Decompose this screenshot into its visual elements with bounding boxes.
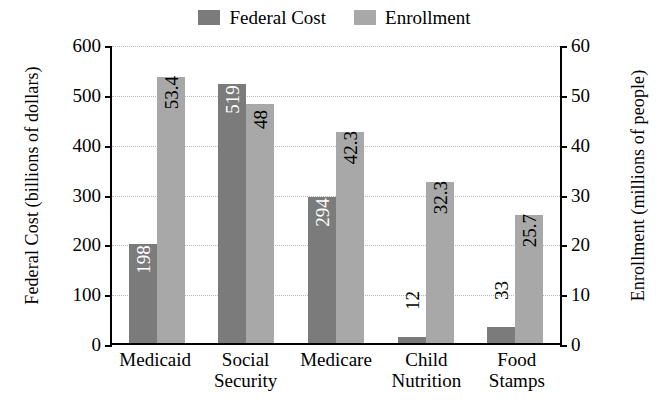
y-axis-right-tick-label: 60 [571, 36, 631, 55]
x-axis-category-label: FoodStamps [472, 349, 562, 407]
y-axis-left-tick-label: 500 [41, 86, 101, 105]
chart-legend: Federal Cost Enrollment [0, 2, 669, 32]
bar-value-label: 519 [223, 86, 242, 115]
y-axis-right-tick [560, 345, 567, 347]
y-axis-right-tick-label: 30 [571, 186, 631, 205]
legend-item-federal-cost: Federal Cost [198, 8, 326, 27]
bar-value-label: 294 [312, 198, 331, 227]
bar-enrollment[interactable]: 48 [246, 104, 274, 343]
y-axis-right-tick-label: 0 [571, 335, 631, 354]
y-axis-left-tick-label: 0 [41, 335, 101, 354]
y-axis-left-tick-label: 200 [41, 235, 101, 254]
y-axis-left-tick [105, 146, 112, 148]
y-axis-right-tick [560, 245, 567, 247]
bar-value-label: 53.4 [161, 76, 180, 109]
y-axis-left-tick [105, 345, 112, 347]
y-axis-right-tick-label: 10 [571, 285, 631, 304]
bar-value-label: 33 [492, 281, 511, 300]
y-axis-right-tick-label: 50 [571, 86, 631, 105]
x-axis-category-line: Medicaid [110, 349, 200, 370]
legend-item-enrollment: Enrollment [354, 8, 470, 27]
y-axis-left-tick-label: 100 [41, 285, 101, 304]
legend-label-federal-cost: Federal Cost [229, 8, 326, 27]
x-axis-category-line: Social [200, 349, 290, 370]
y-axis-right-tick [560, 295, 567, 297]
bar-federal-cost[interactable]: 519 [218, 84, 246, 343]
y-axis-left-title: Federal Cost (billions of dollars) [22, 36, 43, 336]
y-axis-right-tick-label: 40 [571, 136, 631, 155]
bar-federal-cost[interactable]: 198 [129, 244, 157, 343]
bar-value-label: 48 [251, 110, 270, 129]
bar-value-label: 198 [133, 246, 152, 275]
bar-enrollment[interactable]: 42.3 [336, 132, 364, 343]
bar-federal-cost[interactable]: 294 [308, 197, 336, 344]
x-axis-category-line: Medicare [291, 349, 381, 370]
x-axis-category-label: ChildNutrition [381, 349, 471, 407]
x-axis-category-line: Nutrition [381, 370, 471, 391]
bar-enrollment[interactable]: 53.4 [157, 77, 185, 343]
y-axis-left-tick-label: 600 [41, 36, 101, 55]
bar-value-label: 12 [402, 291, 421, 310]
legend-label-enrollment: Enrollment [385, 8, 470, 27]
y-axis-left-tick-label: 400 [41, 136, 101, 155]
y-axis-left-tick [105, 245, 112, 247]
bar-group: 1232.3 [381, 46, 471, 343]
bar-group: 19853.4 [112, 46, 202, 343]
bar-federal-cost[interactable]: 33 [487, 327, 515, 343]
x-axis-category-line: Child [381, 349, 471, 370]
y-axis-right-tick [560, 46, 567, 48]
y-axis-right-tick [560, 96, 567, 98]
bar-federal-cost[interactable]: 12 [398, 337, 426, 343]
bar-value-label: 25.7 [520, 214, 539, 247]
y-axis-left-tick [105, 196, 112, 198]
bar-group: 29442.3 [291, 46, 381, 343]
y-axis-right-tick-label: 20 [571, 235, 631, 254]
bar-groups: 19853.45194829442.31232.33325.7 [112, 46, 560, 343]
y-axis-left-tick [105, 46, 112, 48]
bar-enrollment[interactable]: 32.3 [426, 182, 454, 343]
bar-value-label: 42.3 [340, 131, 359, 164]
x-axis-category-label: Medicaid [110, 349, 200, 407]
bar-group: 51948 [202, 46, 292, 343]
x-axis-category-label: Medicare [291, 349, 381, 407]
x-axis-category-line: Stamps [472, 370, 562, 391]
bar-value-label: 32.3 [430, 181, 449, 214]
y-axis-left-tick-label: 300 [41, 186, 101, 205]
x-axis-category-labels: MedicaidSocialSecurityMedicareChildNutri… [110, 349, 562, 407]
chart-plot-area: 0100200300400500600 0102030405060 19853.… [110, 46, 562, 345]
y-axis-left-tick [105, 295, 112, 297]
y-axis-left-tick [105, 96, 112, 98]
x-axis-category-label: SocialSecurity [200, 349, 290, 407]
bar-enrollment[interactable]: 25.7 [515, 215, 543, 343]
y-axis-right-tick [560, 146, 567, 148]
y-axis-right-tick [560, 196, 567, 198]
legend-swatch-federal-cost-icon [198, 10, 220, 25]
legend-swatch-enrollment-icon [354, 10, 376, 25]
x-axis-category-line: Food [472, 349, 562, 370]
bar-group: 3325.7 [470, 46, 560, 343]
x-axis-category-line: Security [200, 370, 290, 391]
